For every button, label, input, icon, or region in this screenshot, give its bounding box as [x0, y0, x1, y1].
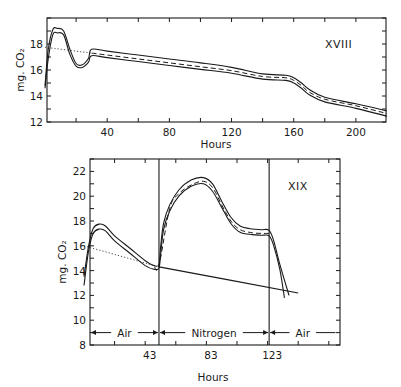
axis-ticks	[47, 18, 386, 122]
x-tick-label: 200	[346, 126, 366, 138]
y-tick-label: 10	[73, 314, 86, 326]
panel-label: XVIII	[325, 38, 352, 51]
arrowhead-right	[263, 330, 268, 335]
x-tick-label: 120	[222, 126, 242, 138]
plot-frame	[47, 18, 386, 122]
y-tick-label: 12	[30, 116, 43, 128]
x-axis-label: Hours	[201, 138, 232, 150]
figure: 12141618 4080120160200 Hours mg. CO₂ XVI…	[0, 0, 401, 387]
series-upper-envelope	[84, 177, 289, 295]
x-tick-label: 43	[143, 349, 156, 361]
y-axis-label: mg. CO₂	[14, 48, 26, 91]
chart-xix: 810121416182022 4383123 AirNitrogenAir H…	[56, 159, 340, 383]
series-baseline-line	[159, 267, 298, 293]
series-mean	[154, 181, 269, 270]
phase-label: Air	[296, 327, 311, 339]
y-tick-label: 8	[79, 339, 86, 351]
y-tick-label: 18	[73, 215, 86, 227]
phase-annotations: AirNitrogenAir	[91, 327, 335, 339]
x-tick-label: 83	[204, 349, 217, 361]
arrowhead-left	[270, 330, 275, 335]
y-tick-label: 14	[30, 90, 44, 102]
x-tick-label: 80	[163, 126, 176, 138]
y-axis-label: mg. CO₂	[56, 240, 68, 283]
series-group	[84, 177, 298, 297]
phase-label: Nitrogen	[191, 327, 236, 339]
y-tick-labels: 12141618	[30, 38, 44, 128]
arrowhead-left	[160, 330, 165, 335]
series-extrapolated-baseline	[84, 246, 154, 266]
x-tick-labels: 4383123	[143, 349, 282, 361]
y-tick-label: 12	[73, 289, 86, 301]
phase-label: Air	[117, 327, 132, 339]
y-tick-label: 16	[30, 64, 44, 76]
x-axis-label: Hours	[198, 371, 229, 383]
x-tick-label: 160	[284, 126, 304, 138]
arrowhead-left	[91, 330, 96, 335]
panel-label: XIX	[288, 180, 308, 193]
y-tick-label: 18	[30, 38, 43, 50]
y-tick-label: 20	[73, 190, 86, 202]
y-tick-label: 22	[73, 165, 86, 177]
chart-xviii: 12141618 4080120160200 Hours mg. CO₂ XVI…	[14, 18, 387, 150]
x-tick-label: 123	[262, 349, 282, 361]
x-tick-labels: 4080120160200	[100, 126, 365, 138]
series-lower-envelope	[84, 184, 284, 298]
x-tick-label: 40	[100, 126, 113, 138]
y-tick-labels: 810121416182022	[73, 165, 87, 351]
series-mean	[92, 53, 387, 113]
arrowhead-right	[153, 330, 158, 335]
